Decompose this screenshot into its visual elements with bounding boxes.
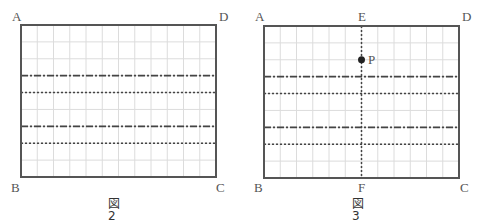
- corner-label-b: B: [254, 181, 263, 194]
- corner-label-a: A: [255, 10, 264, 23]
- point-label-f: F: [358, 181, 365, 194]
- point-p: [358, 56, 365, 63]
- corner-label-c: C: [460, 181, 469, 194]
- figure-3-grid: [0, 0, 482, 221]
- figure-caption: 図 3: [352, 198, 364, 221]
- corner-label-d: D: [462, 10, 471, 23]
- point-label-e: E: [358, 10, 366, 23]
- point-label-p: P: [368, 53, 375, 66]
